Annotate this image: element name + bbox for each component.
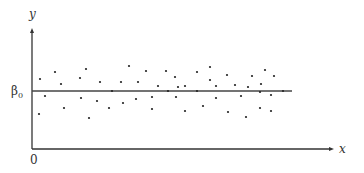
scatter-chart: y β0 0 x	[0, 0, 364, 173]
x-axis-label: x	[339, 143, 346, 155]
y-axis-label: y	[29, 8, 36, 20]
data-point	[282, 90, 284, 92]
data-point	[184, 110, 186, 112]
data-point	[259, 91, 261, 93]
data-point	[157, 85, 159, 87]
data-point	[151, 108, 153, 110]
data-point	[260, 83, 262, 85]
x-axis-arrow-icon	[329, 147, 334, 151]
data-point	[259, 107, 261, 109]
data-point	[215, 85, 217, 87]
axes	[30, 28, 334, 151]
data-point	[120, 81, 122, 83]
beta0-label: β0	[11, 85, 23, 102]
data-point	[247, 86, 249, 88]
data-point	[240, 95, 242, 97]
data-point	[184, 85, 186, 87]
data-point	[196, 71, 198, 73]
data-point	[270, 110, 272, 112]
data-point	[122, 102, 124, 104]
data-point	[85, 68, 87, 70]
data-point	[177, 86, 179, 88]
data-point	[270, 94, 272, 96]
data-point	[273, 75, 275, 77]
origin-label: 0	[30, 154, 38, 166]
data-point	[209, 66, 211, 68]
data-point	[151, 96, 153, 98]
data-point	[108, 107, 110, 109]
data-point	[39, 78, 41, 80]
data-point	[215, 97, 217, 99]
data-point	[63, 107, 65, 109]
data-point	[245, 116, 247, 118]
data-point	[174, 76, 176, 78]
data-point	[54, 71, 56, 73]
data-point	[88, 117, 90, 119]
data-point	[264, 69, 266, 71]
data-point	[135, 98, 137, 100]
data-point	[234, 84, 236, 86]
beta-symbol: β	[11, 84, 18, 98]
data-points	[38, 65, 284, 119]
data-point	[209, 79, 211, 81]
data-point	[137, 81, 139, 83]
y-axis-arrow-icon	[30, 28, 34, 33]
data-point	[111, 90, 113, 92]
data-point	[60, 83, 62, 85]
beta-subscript: 0	[18, 91, 23, 100]
data-point	[227, 111, 229, 113]
data-point	[80, 97, 82, 99]
data-point	[44, 95, 46, 97]
data-point	[96, 100, 98, 102]
data-point	[38, 113, 40, 115]
data-point	[145, 70, 147, 72]
data-point	[128, 65, 130, 67]
data-point	[167, 90, 169, 92]
data-point	[79, 77, 81, 79]
data-point	[251, 75, 253, 77]
data-point	[165, 70, 167, 72]
data-point	[202, 105, 204, 107]
data-point	[175, 96, 177, 98]
data-point	[99, 81, 101, 83]
data-point	[226, 74, 228, 76]
data-point	[196, 90, 198, 92]
plot-area	[0, 0, 364, 173]
